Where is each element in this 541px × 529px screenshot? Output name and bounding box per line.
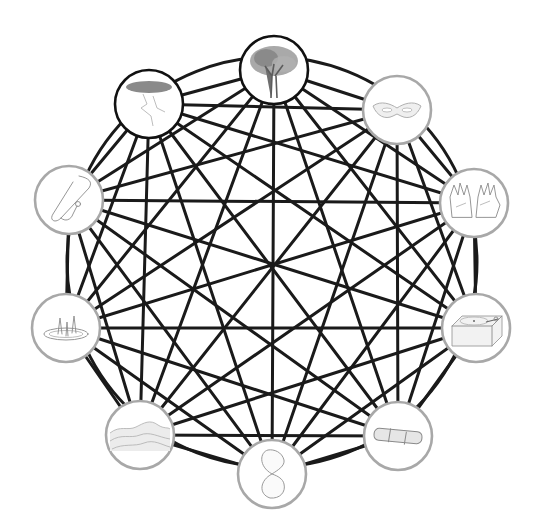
node-turntable: Turntable	[442, 294, 510, 362]
node-bandage: Bandage	[364, 402, 432, 470]
edge-mask-hills	[140, 110, 397, 435]
node-tree: Tree	[240, 36, 308, 104]
node-stethoscope: Stethoscope	[35, 166, 103, 234]
node-hands: Hands	[440, 169, 508, 237]
node-mask: Mask	[363, 76, 431, 144]
node-hills: Hills	[106, 401, 174, 469]
turntable-icon	[452, 316, 502, 346]
edge-bandage-stethoscope	[69, 200, 398, 436]
node-storm-cloud: Storm cloud	[115, 70, 183, 138]
node-circle	[35, 166, 103, 234]
graph-canvas: TreeMaskHandsTurntableBandageHourglassHi…	[0, 0, 541, 529]
edge-bandage-hills	[140, 435, 398, 436]
node-circle	[115, 70, 183, 138]
node-hourglass: Hourglass	[238, 440, 306, 508]
graph-diagram: TreeMaskHandsTurntableBandageHourglassHi…	[0, 0, 541, 529]
node-fountain: Fountain	[32, 294, 100, 362]
edge-hands-stethoscope	[69, 200, 474, 203]
